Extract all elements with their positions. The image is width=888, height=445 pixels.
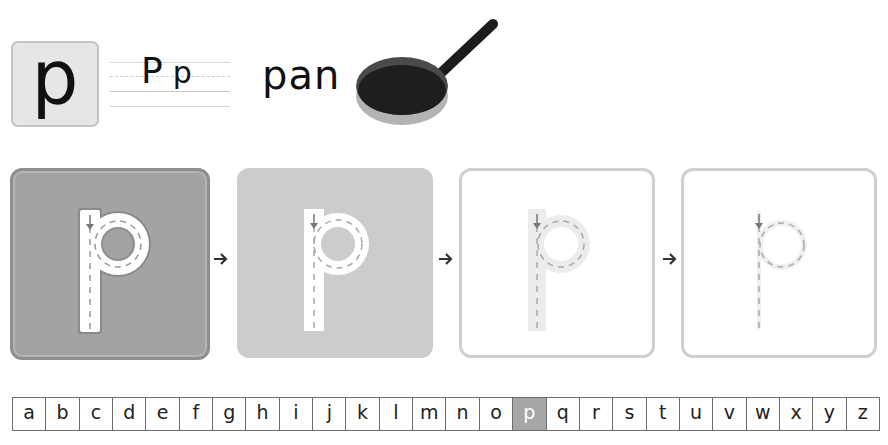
- uppercase-letter: P: [141, 50, 167, 91]
- frying-pan-icon: [350, 10, 500, 135]
- alphabet-cell-q[interactable]: q: [547, 398, 580, 430]
- guide-descender-line: [110, 106, 230, 107]
- alphabet-cell-y[interactable]: y: [813, 398, 846, 430]
- next-step-arrow-icon: [213, 251, 229, 267]
- handwriting-guide: Pp: [110, 60, 230, 110]
- tracing-card-step-4[interactable]: [681, 168, 877, 358]
- tracing-card-step-3[interactable]: [459, 168, 655, 358]
- letter-p-faded-icon: [462, 171, 652, 355]
- alphabet-cell-t[interactable]: t: [647, 398, 680, 430]
- next-step-arrow-icon: [662, 251, 678, 267]
- alphabet-cell-d[interactable]: d: [113, 398, 146, 430]
- tracing-card-step-2[interactable]: [237, 168, 433, 358]
- alphabet-cell-n[interactable]: n: [446, 398, 479, 430]
- alphabet-cell-o[interactable]: o: [480, 398, 513, 430]
- alphabet-cell-z[interactable]: z: [847, 398, 879, 430]
- example-word: pan: [262, 55, 340, 95]
- alphabet-cell-w[interactable]: w: [747, 398, 780, 430]
- alphabet-cell-s[interactable]: s: [613, 398, 646, 430]
- alphabet-cell-k[interactable]: k: [346, 398, 379, 430]
- alphabet-cell-u[interactable]: u: [680, 398, 713, 430]
- alphabet-cell-l[interactable]: l: [380, 398, 413, 430]
- tracing-card-step-1[interactable]: [10, 168, 210, 360]
- guide-baseline: [110, 91, 230, 92]
- lowercase-letter: p: [173, 55, 196, 90]
- alphabet-cell-i[interactable]: i: [280, 398, 313, 430]
- alphabet-cell-j[interactable]: j: [313, 398, 346, 430]
- featured-letter-box: p: [11, 41, 99, 127]
- alphabet-cell-g[interactable]: g: [213, 398, 246, 430]
- alphabet-cell-v[interactable]: v: [713, 398, 746, 430]
- alphabet-bar: a b c d e f g h i j k l m n o p q r s t …: [12, 397, 880, 431]
- alphabet-cell-x[interactable]: x: [780, 398, 813, 430]
- alphabet-cell-p-selected[interactable]: p: [513, 398, 546, 430]
- letter-p-dashed-icon: [684, 171, 874, 355]
- featured-letter: p: [32, 40, 79, 114]
- next-step-arrow-icon: [438, 251, 454, 267]
- alphabet-cell-f[interactable]: f: [180, 398, 213, 430]
- alphabet-cell-a[interactable]: a: [13, 398, 46, 430]
- alphabet-cell-c[interactable]: c: [80, 398, 113, 430]
- alphabet-cell-h[interactable]: h: [246, 398, 279, 430]
- alphabet-cell-e[interactable]: e: [146, 398, 179, 430]
- letter-pair: Pp: [141, 53, 196, 89]
- alphabet-cell-m[interactable]: m: [413, 398, 446, 430]
- alphabet-cell-r[interactable]: r: [580, 398, 613, 430]
- letter-p-raised-icon: [13, 171, 207, 357]
- letter-p-track-icon: [237, 168, 433, 358]
- alphabet-cell-b[interactable]: b: [46, 398, 79, 430]
